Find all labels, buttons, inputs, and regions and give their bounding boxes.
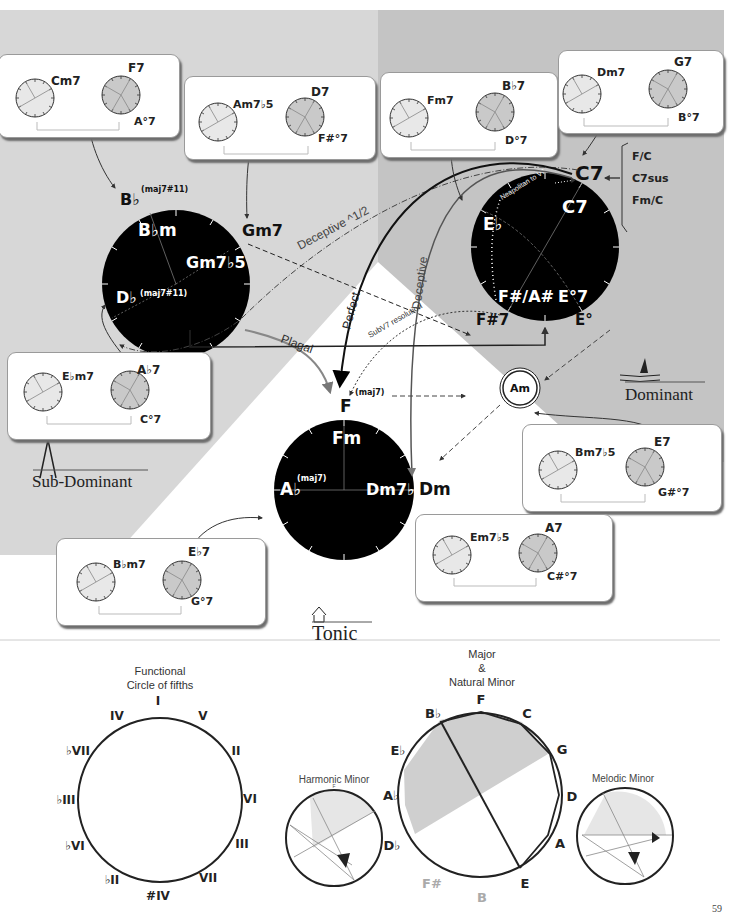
chord-fm: Fm: [332, 428, 361, 448]
chord-gm7b5: Gm7♭5: [186, 253, 246, 272]
chord-edim: E°: [575, 311, 593, 329]
chord-c7-outer: C7: [575, 161, 604, 185]
svg-text:Tonic: Tonic: [312, 622, 357, 644]
svg-text:B♭: B♭: [425, 706, 441, 721]
svg-text:Natural Minor: Natural Minor: [449, 676, 515, 688]
svg-text:F: F: [332, 783, 335, 789]
tonic-circle: Fm A♭ (maj7) Dm7♭5: [274, 420, 426, 560]
svg-text:F: F: [477, 692, 486, 707]
chord-gm7: Gm7: [242, 221, 283, 240]
svg-text:V: V: [198, 709, 208, 723]
svg-text:F#: F#: [422, 876, 442, 891]
chord-function-diagram: B♭m Gm7♭5 D♭ (maj7#11) B♭ (maj7#11) Gm7 …: [0, 0, 746, 920]
harmonic-minor-circle: Harmonic Minor F: [286, 774, 382, 886]
am-node[interactable]: Am: [500, 368, 540, 408]
chord-eb: E♭: [483, 214, 503, 234]
svg-text:D: D: [567, 789, 578, 804]
chord-dm: Dm: [419, 479, 451, 499]
svg-text:A♭: A♭: [383, 788, 399, 803]
chord-dm7b5: Dm7♭5: [366, 480, 426, 499]
card-am7b5-d7: [184, 76, 376, 160]
chord-fmaj7: F: [340, 396, 352, 416]
svg-text:F/C: F/C: [632, 150, 652, 163]
svg-text:IV: IV: [110, 709, 124, 723]
chord-db: D♭: [116, 288, 137, 307]
chord-bbmaj7: B♭: [120, 190, 140, 209]
svg-text:III: III: [235, 837, 248, 851]
svg-text:♭II: ♭II: [105, 873, 120, 887]
svg-text:I: I: [156, 694, 160, 708]
chord-db-sup: (maj7#11): [140, 289, 187, 298]
svg-text:B: B: [477, 890, 487, 905]
tonic-label: Tonic: [312, 607, 372, 644]
major-natural-minor-circle: Major & Natural Minor F C G D A E B F# D…: [383, 648, 578, 905]
svg-text:VI: VI: [243, 792, 257, 806]
svg-text:♭VII: ♭VII: [66, 744, 90, 758]
svg-text:Major: Major: [468, 648, 496, 660]
card-ebm7-ab7: [7, 352, 211, 440]
svg-text:Circle of fifths: Circle of fifths: [127, 679, 194, 691]
card-fm7-bb7: [380, 72, 558, 158]
svg-text:E♭: E♭: [390, 743, 405, 758]
chord-ab-sup: (maj7): [297, 474, 326, 483]
svg-text:C7sus: C7sus: [632, 172, 669, 185]
svg-text:♭VI: ♭VI: [65, 839, 84, 853]
chord-fmaj7-sup: (maj7): [355, 388, 384, 397]
svg-text:#IV: #IV: [146, 889, 171, 903]
card-dm7-g7: [558, 50, 724, 134]
svg-text:♭III: ♭III: [56, 793, 75, 807]
svg-text:E: E: [521, 876, 530, 891]
svg-text:Sub-Dominant: Sub-Dominant: [32, 472, 132, 491]
melodic-minor-circle: Melodic Minor: [577, 773, 673, 884]
functional-circle: Functional Circle of fifths I V II VI II…: [56, 665, 256, 903]
svg-text:Functional: Functional: [135, 665, 186, 677]
card-cm7-f7: [0, 54, 180, 138]
chord-fsharp7: F#7: [476, 311, 509, 329]
card-bbm7-eb7: [56, 538, 266, 626]
svg-text:A: A: [555, 836, 565, 851]
svg-text:G: G: [557, 742, 568, 757]
svg-text:D♭: D♭: [384, 838, 401, 853]
chord-bbmaj7-sup: (maj7#11): [141, 185, 188, 194]
svg-text:Am: Am: [510, 382, 530, 395]
chord-c7-inner: C7: [562, 196, 588, 217]
svg-text:Fm/C: Fm/C: [632, 194, 663, 207]
svg-text:Dominant: Dominant: [625, 385, 693, 404]
chord-edim7: E°7: [558, 287, 588, 306]
svg-text:C: C: [522, 706, 532, 721]
card-em7b5-a7: [415, 514, 613, 602]
svg-text:VII: VII: [199, 871, 217, 885]
svg-text:II: II: [232, 744, 241, 758]
svg-text:&: &: [478, 662, 486, 674]
chord-bbm: B♭m: [138, 220, 177, 240]
chord-fsharp-asharp: F#/A#: [498, 287, 554, 306]
sub-dominant-circle: B♭m Gm7♭5 D♭ (maj7#11): [102, 210, 250, 358]
page-number: 59: [712, 903, 722, 914]
card-bm7b5-e7: [522, 424, 722, 512]
svg-text:Melodic Minor: Melodic Minor: [592, 773, 655, 784]
